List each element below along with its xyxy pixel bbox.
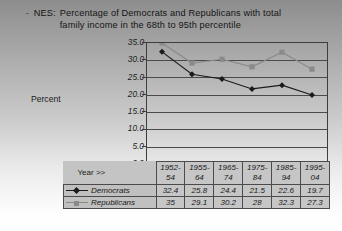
data-point-diamond <box>219 76 225 82</box>
title-prefix: NES: <box>34 8 56 18</box>
y-tick-label: 25.0 <box>106 72 144 82</box>
column-header: 1985-94 <box>272 162 301 185</box>
plot-area <box>146 42 328 163</box>
table-cell: 25.8 <box>185 185 214 197</box>
table-cell: 35 <box>156 197 185 209</box>
table-cell: 32.4 <box>156 185 185 197</box>
table-cell: 30.2 <box>214 197 243 209</box>
column-header: 1995-04 <box>301 162 330 185</box>
column-header: 1952-54 <box>156 162 185 185</box>
table-cell: 22.6 <box>272 185 301 197</box>
y-tick-label: 30.0 <box>106 54 144 64</box>
table-row-democrats: Democrats 32.4 25.8 24.4 21.5 22.6 19.7 <box>64 185 330 197</box>
data-point-diamond <box>279 82 285 88</box>
data-point-square <box>219 57 224 62</box>
title-text: NES:Percentage of Democrats and Republic… <box>34 7 282 31</box>
data-point-square <box>279 50 284 55</box>
column-header: 1975-84 <box>243 162 272 185</box>
data-point-square <box>159 43 164 46</box>
table-cell: 21.5 <box>243 185 272 197</box>
column-header: 1955-64 <box>185 162 214 185</box>
table-cell: 27.3 <box>301 197 330 209</box>
y-axis-tick-labels: 35.0 30.0 25.0 20.0 15.0 10.0 5.0 0.0 <box>100 42 144 163</box>
legend-item-republicans: Republicans <box>64 197 157 209</box>
table-cell: 29.1 <box>185 197 214 209</box>
square-marker-icon <box>66 198 88 207</box>
table-cell: 28 <box>243 197 272 209</box>
table-row-republicans: Republicans 35 29.1 30.2 28 32.3 27.3 <box>64 197 330 209</box>
column-header: 1965-74 <box>214 162 243 185</box>
legend-label: Republicans <box>91 198 135 207</box>
slide-canvas: - NES:Percentage of Democrats and Republ… <box>0 0 342 231</box>
data-point-square <box>189 60 194 65</box>
y-tick-label: 35.0 <box>106 37 144 47</box>
chart: Percent 35.0 30.0 25.0 20.0 15.0 10.0 5.… <box>0 36 342 166</box>
diamond-marker-icon <box>66 186 88 195</box>
data-point-square <box>309 67 314 72</box>
data-point-diamond <box>309 92 315 98</box>
y-tick-label: 20.0 <box>106 89 144 99</box>
slide-title: - NES:Percentage of Democrats and Republ… <box>26 7 326 31</box>
legend-item-democrats: Democrats <box>64 185 157 197</box>
table-header-row: Year >> 1952-54 1955-64 1965-74 1975-84 … <box>64 162 330 185</box>
data-point-diamond <box>249 86 255 92</box>
table-cell: 32.3 <box>272 197 301 209</box>
table-cell: 19.7 <box>301 185 330 197</box>
title-line-1: Percentage of Democrats and Republicans … <box>60 8 281 18</box>
y-tick-label: 10.0 <box>106 123 144 133</box>
table-cell: 24.4 <box>214 185 243 197</box>
x-axis-title: Year >> <box>64 162 157 185</box>
y-tick-label: 15.0 <box>106 106 144 116</box>
y-axis-title: Percent <box>31 94 61 104</box>
legend-label: Democrats <box>91 186 130 195</box>
series-plot <box>147 43 327 162</box>
title-line-2: family income in the 68th to 95th percen… <box>60 20 241 30</box>
bullet-icon: - <box>26 7 29 18</box>
series-line-republicans <box>162 43 312 69</box>
data-point-square <box>249 64 254 69</box>
data-table: Year >> 1952-54 1955-64 1965-74 1975-84 … <box>63 161 330 209</box>
y-tick-label: 5.0 <box>106 141 144 151</box>
